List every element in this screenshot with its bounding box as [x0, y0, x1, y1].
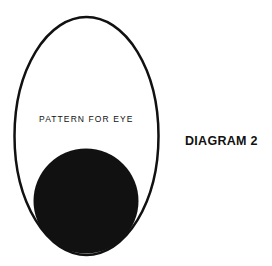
pupil-circle — [34, 149, 139, 254]
eye-pattern-drawing — [0, 0, 272, 266]
diagram-title: DIAGRAM 2 — [185, 134, 258, 148]
pattern-for-eye-label: PATTERN FOR EYE — [39, 114, 134, 124]
